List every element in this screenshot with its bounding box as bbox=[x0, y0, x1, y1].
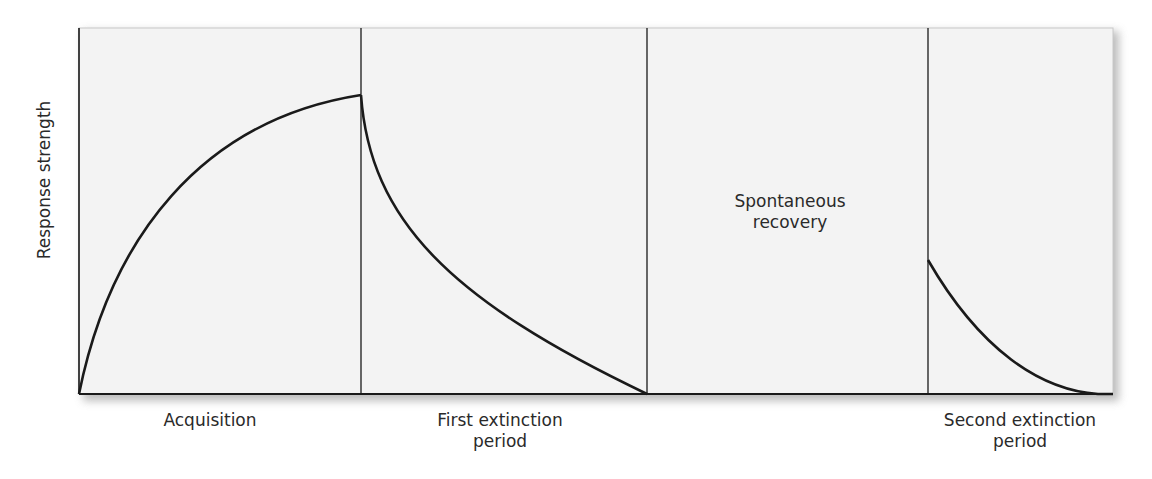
phase-label-line: period bbox=[410, 431, 590, 452]
phase-label-line: Acquisition bbox=[140, 410, 280, 431]
annotation-spontaneous-recovery: Spontaneous recovery bbox=[710, 191, 870, 233]
phase-label-line: First extinction bbox=[410, 410, 590, 431]
phase-label-line: Second extinction bbox=[925, 410, 1115, 431]
phase-label-first-extinction: First extinction period bbox=[410, 410, 590, 452]
phase-label-line: period bbox=[925, 431, 1115, 452]
chart-canvas bbox=[0, 0, 1152, 479]
y-axis-label: Response strength bbox=[34, 101, 54, 260]
phase-label-acquisition: Acquisition bbox=[140, 410, 280, 431]
annotation-line: Spontaneous bbox=[710, 191, 870, 212]
annotation-line: recovery bbox=[710, 212, 870, 233]
phase-label-second-extinction: Second extinction period bbox=[925, 410, 1115, 452]
plot-panel bbox=[79, 28, 1113, 394]
